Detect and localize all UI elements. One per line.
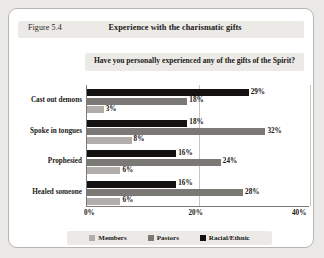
figure-title-bar: Figure 5.4 Experience with the charismat…: [18, 21, 304, 38]
chart-bar-value-label: 32%: [267, 127, 281, 135]
chart-bar-group: Cast out demons29%18%3%: [87, 89, 309, 113]
legend-swatch-icon: [89, 235, 95, 241]
category-label: Prophesied: [48, 157, 82, 165]
chart-bar-value-label: 6%: [122, 196, 133, 204]
x-axis-tick-label: 40%: [292, 209, 306, 217]
legend-label: Racial/Ethnic: [209, 234, 250, 242]
chart-bar-value-label: 8%: [134, 135, 145, 143]
chart-bar[interactable]: [87, 167, 120, 174]
chart-legend: MembersPastorsRacial/Ethnic: [67, 231, 272, 245]
chart-bar-group: Spoke in tongues18%32%8%: [87, 120, 309, 144]
category-label: Cast out demons: [31, 96, 82, 104]
chart-bar-row: 6%: [87, 167, 309, 174]
chart-bar-value-label: 3%: [106, 105, 117, 113]
legend-item[interactable]: Members: [89, 234, 126, 242]
figure-title: Experience with the charismatic gifts: [18, 23, 304, 32]
x-axis-tick-label: 0%: [84, 209, 95, 217]
chart-bar[interactable]: [87, 189, 243, 196]
chart-bar[interactable]: [87, 137, 132, 144]
figure-subtitle: Have you personally experienced any of t…: [85, 56, 304, 65]
figure-card: Figure 5.4 Experience with the charismat…: [8, 8, 314, 248]
chart-bar-row: 3%: [87, 106, 309, 113]
chart-bar-value-label: 6%: [122, 166, 133, 174]
legend-swatch-icon: [148, 235, 154, 241]
x-axis-tick-label: 20%: [189, 209, 203, 217]
category-label: Spoke in tongues: [30, 127, 82, 135]
chart-bar-row: 29%: [87, 89, 309, 96]
chart-bar-row: 16%: [87, 150, 309, 157]
chart-gridline: [310, 85, 311, 206]
category-label: Healed someone: [32, 188, 82, 196]
chart-plot-area: Cast out demons29%18%3%Spoke in tongues1…: [86, 85, 309, 207]
chart-bar[interactable]: [87, 159, 221, 166]
chart-bar-group: Prophesied16%24%6%: [87, 150, 309, 174]
legend-item[interactable]: Racial/Ethnic: [200, 234, 250, 242]
legend-label: Pastors: [157, 234, 179, 242]
chart-bar-value-label: 18%: [189, 118, 203, 126]
chart-bar[interactable]: [87, 89, 249, 96]
chart-bar-row: 6%: [87, 198, 309, 205]
chart-bar-row: 24%: [87, 159, 309, 166]
chart-bar-value-label: 18%: [189, 96, 203, 104]
chart-bar[interactable]: [87, 128, 265, 135]
chart-bar[interactable]: [87, 106, 104, 113]
chart-bar[interactable]: [87, 150, 176, 157]
chart-bar-row: 16%: [87, 181, 309, 188]
chart-bar-row: 18%: [87, 120, 309, 127]
chart-bar[interactable]: [87, 181, 176, 188]
chart-bar-row: 28%: [87, 189, 309, 196]
legend-swatch-icon: [200, 235, 206, 241]
chart-bar-value-label: 24%: [223, 157, 237, 165]
chart-bar-row: 8%: [87, 137, 309, 144]
chart-bar-row: 18%: [87, 98, 309, 105]
chart-bar[interactable]: [87, 120, 187, 127]
legend-label: Members: [98, 234, 126, 242]
legend-item[interactable]: Pastors: [148, 234, 179, 242]
figure-subtitle-banner: Have you personally experienced any of t…: [85, 53, 304, 71]
chart-bar-row: 32%: [87, 128, 309, 135]
chart-bar-value-label: 28%: [245, 188, 259, 196]
chart-bar-value-label: 16%: [178, 149, 192, 157]
chart-bar-value-label: 29%: [251, 88, 265, 96]
chart-bar-group: Healed someone16%28%6%: [87, 181, 309, 205]
chart-bar[interactable]: [87, 198, 120, 205]
chart-bar[interactable]: [87, 98, 187, 105]
chart-bar-value-label: 16%: [178, 179, 192, 187]
